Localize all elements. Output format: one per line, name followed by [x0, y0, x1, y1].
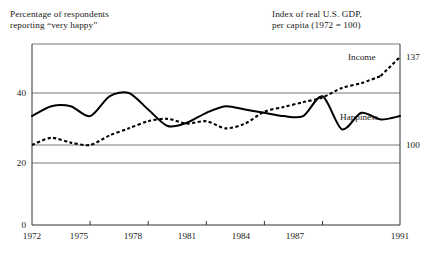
chart-figure: Percentage of respondents reporting “ver… [0, 0, 434, 256]
series-line-income [32, 76, 381, 145]
series-line-income-leader [381, 57, 400, 76]
plot-area [0, 0, 434, 256]
axis-lines [32, 44, 400, 225]
x-tick-marks [90, 221, 322, 225]
